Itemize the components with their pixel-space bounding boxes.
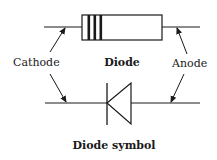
cathode-arrow-up — [50, 28, 65, 52]
anode-label: Anode — [171, 57, 207, 70]
diode-label: Diode — [104, 56, 140, 69]
diode-diagram: Cathode Diode Anode Diode symbol — [0, 0, 217, 160]
cathode-label: Cathode — [13, 56, 60, 69]
cathode-band-2 — [94, 15, 97, 40]
cathode-arrow-down — [50, 74, 66, 102]
physical-diode — [44, 15, 200, 40]
cathode-band-1 — [88, 15, 91, 40]
cathode-band-3 — [100, 15, 103, 40]
symbol-triangle — [107, 83, 131, 124]
anode-arrow-up — [177, 28, 187, 54]
anode-arrow-down — [171, 74, 184, 102]
diode-symbol-label: Diode symbol — [72, 139, 155, 152]
